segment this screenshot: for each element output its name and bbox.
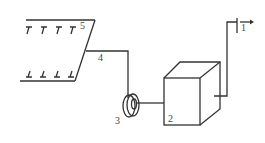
label-2: 2 (168, 113, 173, 124)
system-diagram: 1 2 3 4 5 (0, 0, 265, 143)
outlet-pipe (214, 22, 237, 96)
pump-disc (123, 94, 139, 117)
label-4: 4 (98, 52, 103, 63)
bottom-ray-arrows (26, 71, 74, 77)
pipe-4 (86, 51, 128, 98)
label-3: 3 (115, 115, 120, 126)
label-5: 5 (80, 20, 85, 31)
label-1: 1 (241, 22, 246, 33)
top-ray-arrows (26, 27, 76, 34)
